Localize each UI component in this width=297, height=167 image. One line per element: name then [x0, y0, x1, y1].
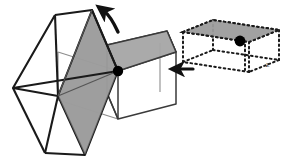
z-axis-label: z: [265, 59, 270, 69]
prism-top-face: [107, 31, 176, 71]
apex-vertex-dot: [113, 66, 123, 76]
geometric-diagram: z: [0, 0, 297, 167]
left-figure-group: [13, 10, 176, 155]
right-figure-group: z: [183, 20, 279, 72]
figure-canvas: z Folding net to parallelepiped diagram …: [0, 0, 297, 167]
marked-vertex-dot: [235, 36, 246, 47]
rotation-arrow: [104, 11, 118, 32]
